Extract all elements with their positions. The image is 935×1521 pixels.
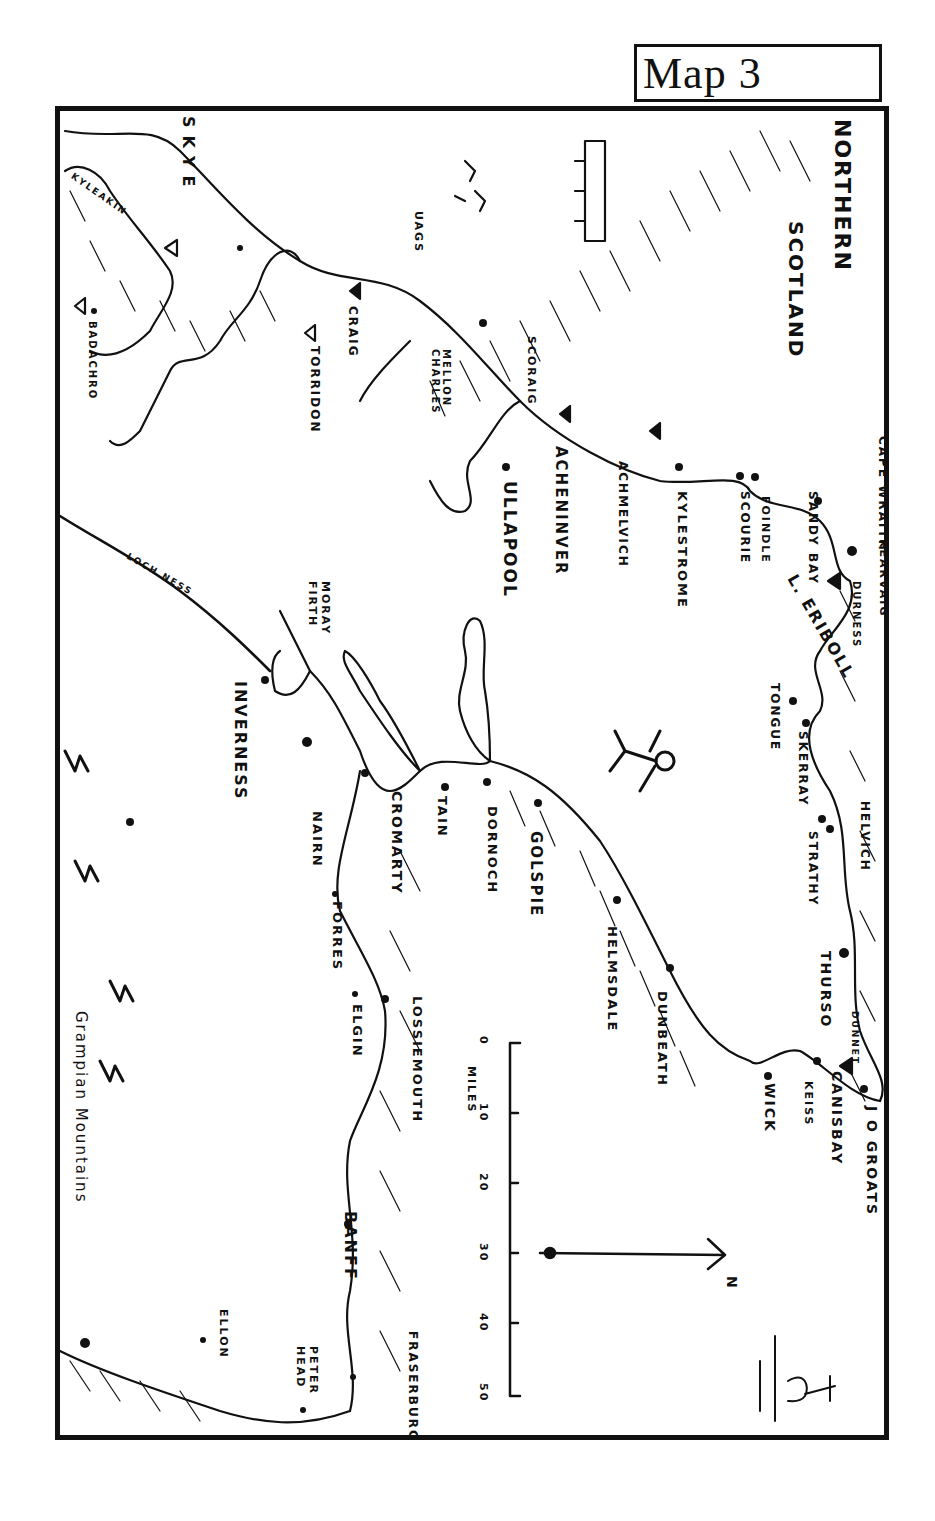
scale-tick-20: 20 <box>477 1173 490 1192</box>
label-uags: UAGS <box>412 211 425 253</box>
label-elgin: ELGIN <box>350 1004 365 1058</box>
label-dunbeath: DUNBEATH <box>655 991 670 1087</box>
map-drawing <box>60 111 884 1435</box>
label-forres: FORRES <box>330 901 345 971</box>
label-craig: CRAIG <box>346 306 360 358</box>
label-kearvaig: KEARVAIG <box>877 539 889 617</box>
label-sandy-bay: SANDY BAY <box>806 491 820 585</box>
label-fraserburgh: FRASERBURGH <box>406 1331 420 1440</box>
label-strathy: STRATHY <box>806 831 820 906</box>
label-mellon-charles: MELLON CHARLES <box>430 349 452 409</box>
label-inverness: INVERNESS <box>231 681 250 801</box>
label-keiss: KEISS <box>802 1081 815 1126</box>
scale-unit-miles: MILES <box>465 1066 478 1114</box>
hostel-triangles <box>75 240 852 1074</box>
label-golspie: GOLSPIE <box>527 831 545 917</box>
label-helmsdale: HELMSDALE <box>605 926 620 1032</box>
stick-figure-icon <box>610 731 674 791</box>
north-arrow <box>540 1239 725 1269</box>
label-moray-firth: MORAY FIRTH <box>306 581 332 621</box>
label-acheninver: ACHENINVER <box>552 446 570 576</box>
coastline-moray <box>337 771 385 1411</box>
label-tongue: TONGUE <box>768 683 782 751</box>
label-badachro: BADACHRO <box>87 321 98 400</box>
label-dornoch: DORNOCH <box>485 806 500 894</box>
coastline-north <box>65 131 883 1101</box>
label-dunnet: DUNNET <box>850 1011 860 1065</box>
label-scourie: SCOURIE <box>738 491 752 564</box>
sea-hatching <box>70 131 875 1421</box>
north-arrow-label: N <box>724 1276 740 1290</box>
label-foindle: FOINDLE <box>759 496 772 564</box>
label-grampian-mountains: Grampian Mountains <box>72 1011 90 1203</box>
label-cape-wraith: CAPE WRAITH <box>876 436 889 552</box>
label-cromarty: CROMARTY <box>389 791 405 895</box>
label-skye: SKYE <box>179 116 198 194</box>
cromarty-firth <box>344 651 420 771</box>
birds-icon <box>455 161 485 211</box>
scale-bar <box>510 1043 520 1396</box>
map-title-scotland: SCOTLAND <box>784 221 808 358</box>
boat-icon <box>575 141 605 241</box>
town-dots <box>80 245 868 1413</box>
label-canisbay: CANISBAY <box>829 1071 845 1165</box>
dornoch-firth <box>459 618 490 761</box>
map-number-title: Map 3 <box>643 49 762 99</box>
scale-tick-0: 0 <box>477 1036 490 1046</box>
label-tain: TAIN <box>435 796 450 838</box>
map-frame: NORTHERN SCOTLAND CAPE WRAITH KEARVAIG D… <box>55 106 889 1440</box>
scale-tick-10: 10 <box>477 1103 490 1122</box>
label-wick: WICK <box>762 1083 778 1133</box>
scale-tick-50: 50 <box>477 1383 490 1402</box>
lighthouse-cliff-icon <box>760 1336 835 1421</box>
label-peterhead: PETER HEAD <box>294 1346 320 1386</box>
loch-ness <box>60 516 270 671</box>
scale-tick-40: 40 <box>477 1313 490 1332</box>
label-helvich: HELVICH <box>858 801 872 872</box>
label-torridon: TORRIDON <box>308 346 322 434</box>
label-ellon: ELLON <box>217 1309 230 1359</box>
map-title-box: Map 3 <box>634 44 882 102</box>
label-ullapool: ULLAPOOL <box>500 481 520 598</box>
label-banff: BANFF <box>341 1211 360 1281</box>
label-thurso: THURSO <box>818 951 834 1028</box>
skye-coast <box>65 167 173 355</box>
label-durness: DURNESS <box>851 581 862 648</box>
scale-tick-30: 30 <box>477 1243 490 1262</box>
label-kylestrome: KYLESTROME <box>675 491 690 609</box>
label-lossiemouth: LOSSIEMOUTH <box>410 996 425 1123</box>
label-nairn: NAIRN <box>310 811 325 868</box>
label-john-o-groats: J O GROATS <box>864 1106 880 1216</box>
label-skerray: SKERRAY <box>796 731 810 806</box>
label-scoraig: SCORAIG <box>525 336 538 405</box>
map-title-northern: NORTHERN <box>830 119 855 272</box>
label-achmelvich: ACHMELVICH <box>616 461 630 568</box>
